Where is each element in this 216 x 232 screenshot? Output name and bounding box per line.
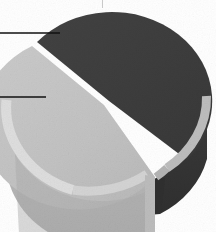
top-crop-mark-icon (102, 0, 103, 8)
print-grain-overlay (0, 0, 216, 232)
pie-chart-svg (0, 0, 216, 232)
pie-chart-figure: Segment A 40 Segment B 60 (0, 0, 216, 232)
